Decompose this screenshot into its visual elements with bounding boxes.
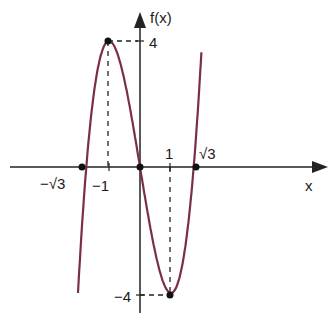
x-tick-neg1: −1 (92, 178, 109, 193)
x-tick-sqrt3: √3 (199, 146, 216, 161)
x-axis-label: x (305, 178, 313, 193)
y-tick-neg4: −4 (114, 289, 131, 304)
root-zero (137, 164, 144, 171)
x-tick-1: 1 (165, 146, 173, 161)
root-sqrt3 (193, 164, 200, 171)
chart: f(x) x 4 −4 −√3 −1 1 √3 (0, 0, 330, 313)
y-axis-arrow-icon (134, 12, 146, 28)
x-tick-neg-sqrt3: −√3 (40, 176, 65, 191)
y-tick-4: 4 (149, 35, 157, 50)
local-min-point (167, 292, 174, 299)
root-neg-sqrt3 (79, 164, 86, 171)
local-max-point (105, 38, 112, 45)
y-axis-label: f(x) (150, 10, 172, 25)
x-axis-arrow-icon (312, 161, 328, 173)
